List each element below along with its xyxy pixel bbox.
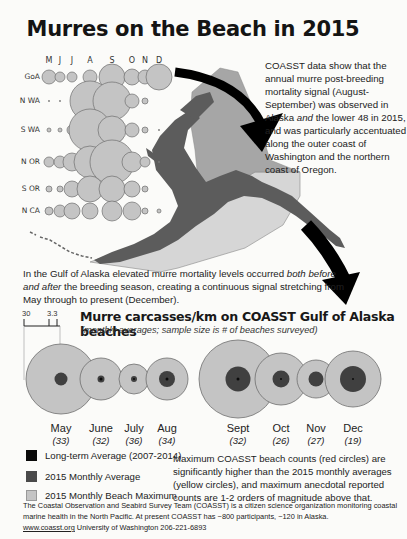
bubble-long-term-average-2007-2014- bbox=[166, 378, 169, 381]
footer: The Coastal Observation and Seabird Surv… bbox=[23, 500, 403, 533]
bubble-long-term-average-2007-2014- bbox=[352, 378, 354, 380]
legend-item-monthly-average: 2015 Monthly Average bbox=[26, 471, 140, 482]
legend-item-longterm: Long-term Average (2007-2014) bbox=[26, 450, 181, 461]
month-label: Dec bbox=[328, 422, 378, 434]
legend-swatch-black bbox=[26, 450, 37, 461]
coasst-website-link[interactable]: www.coasst.org bbox=[23, 523, 75, 532]
bubble-long-term-average-2007-2014- bbox=[100, 378, 103, 381]
bubble-long-term-average-2007-2014- bbox=[280, 378, 282, 380]
bubble-long-term-average-2007-2014- bbox=[133, 378, 135, 380]
bubble-2015-monthly-average bbox=[309, 372, 324, 387]
legend-swatch-dark-gray bbox=[26, 471, 37, 482]
month-label: Aug bbox=[142, 422, 192, 434]
maximum-counts-note: Maximum COASST beach counts (red circles… bbox=[173, 452, 398, 504]
bubble-2015-monthly-average bbox=[55, 373, 68, 386]
sample-size-label: (19) bbox=[328, 435, 378, 446]
bubble-long-term-average-2007-2014- bbox=[237, 378, 240, 381]
sample-size-label: (34) bbox=[142, 435, 192, 446]
